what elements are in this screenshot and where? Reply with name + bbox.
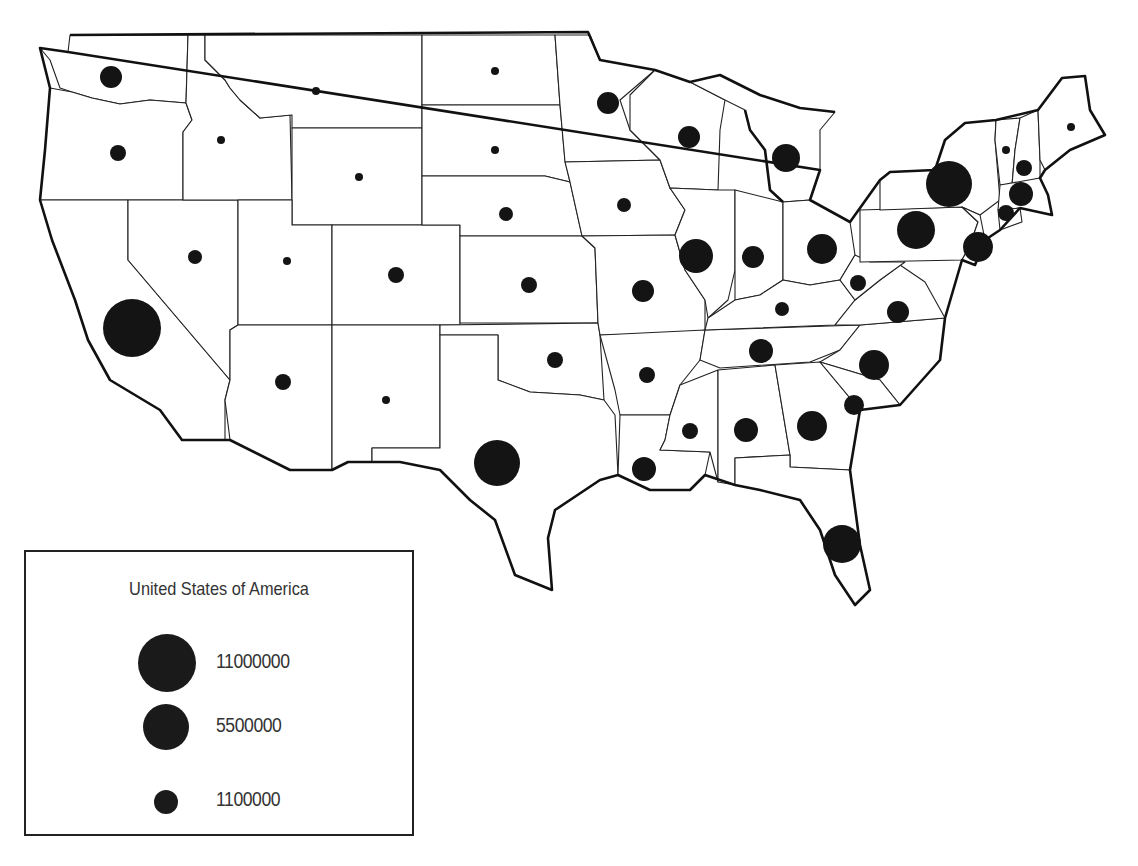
- symbol-fl: [823, 525, 861, 563]
- symbol-wy: [355, 173, 363, 181]
- symbol-me: [1067, 123, 1075, 131]
- symbol-wv: [850, 275, 866, 291]
- symbol-vt: [1002, 146, 1010, 154]
- legend-label-small: 1100000: [216, 788, 280, 811]
- legend-circle-large-icon: [138, 634, 196, 692]
- symbol-nh: [1016, 160, 1032, 176]
- symbol-ia: [617, 198, 631, 212]
- symbol-mt: [312, 87, 320, 95]
- symbol-ok: [547, 352, 563, 368]
- symbol-ma: [1009, 182, 1033, 206]
- symbol-ct: [998, 205, 1014, 221]
- state-sd: [422, 105, 570, 182]
- symbol-tn: [749, 339, 773, 363]
- symbol-mn: [597, 92, 619, 114]
- symbol-ca: [103, 299, 161, 357]
- symbol-id: [217, 136, 225, 144]
- symbol-wi: [678, 126, 700, 148]
- symbol-tx: [474, 440, 520, 486]
- state-me: [1038, 76, 1105, 170]
- legend: United States of America 11000000 550000…: [24, 550, 414, 836]
- symbol-ar: [639, 367, 655, 383]
- symbol-nv: [188, 250, 202, 264]
- symbol-mo: [632, 280, 654, 302]
- symbol-ne: [499, 207, 513, 221]
- symbol-ky: [775, 302, 789, 316]
- symbol-sc: [844, 395, 864, 415]
- symbol-nm: [382, 396, 390, 404]
- symbol-co: [388, 267, 404, 283]
- legend-item-medium: 5500000: [26, 704, 412, 750]
- state-in: [735, 190, 783, 300]
- symbol-az: [275, 374, 291, 390]
- legend-circle-small-icon: [154, 790, 178, 814]
- symbol-va: [887, 301, 909, 323]
- symbol-nd: [491, 67, 499, 75]
- symbol-nj: [963, 232, 993, 262]
- symbol-il: [679, 239, 713, 273]
- symbol-in: [742, 246, 764, 268]
- symbol-nc: [859, 350, 889, 380]
- symbol-al: [734, 418, 758, 442]
- symbol-ny: [926, 161, 972, 207]
- symbol-oh: [807, 234, 837, 264]
- state-or: [40, 88, 192, 200]
- symbol-ga: [797, 411, 827, 441]
- symbol-sd: [491, 146, 499, 154]
- symbol-ut: [283, 257, 291, 265]
- symbol-pa: [897, 211, 935, 249]
- symbol-or: [110, 145, 126, 161]
- state-az: [225, 325, 332, 470]
- symbol-ms: [682, 423, 698, 439]
- legend-circle-medium-icon: [143, 704, 189, 750]
- legend-item-small: 1100000: [26, 790, 412, 814]
- legend-label-medium: 5500000: [216, 714, 281, 737]
- legend-item-large: 11000000: [26, 634, 412, 692]
- symbol-mi: [772, 144, 800, 172]
- symbol-wa: [100, 66, 122, 88]
- legend-title: United States of America: [53, 578, 385, 600]
- legend-label-large: 11000000: [216, 650, 289, 673]
- symbol-ks: [521, 277, 537, 293]
- state-nd: [422, 35, 560, 105]
- symbol-la: [632, 457, 656, 481]
